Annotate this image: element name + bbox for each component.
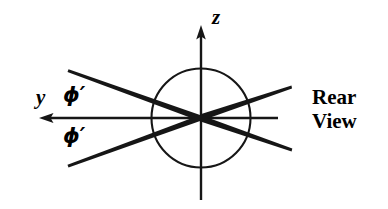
rear-view-caption: Rear View — [312, 86, 357, 133]
z-axis-label: z — [212, 7, 220, 28]
phi-prime-label-upper: ϕ′ — [63, 85, 85, 106]
beam-lower-right — [201, 115, 293, 152]
y-axis-label: y — [36, 87, 45, 108]
beam-upper-left — [68, 69, 202, 122]
phi-prime-label-lower: ϕ′ — [63, 126, 85, 147]
caption-line-1: Rear — [312, 86, 357, 110]
z-axis — [196, 25, 206, 200]
caption-line-2: View — [312, 110, 357, 134]
rear-view-figure: z y ϕ′ ϕ′ Rear View — [0, 0, 388, 209]
y-axis — [39, 113, 278, 123]
beam-lower-left — [68, 114, 202, 167]
beam-upper-right — [201, 86, 293, 122]
